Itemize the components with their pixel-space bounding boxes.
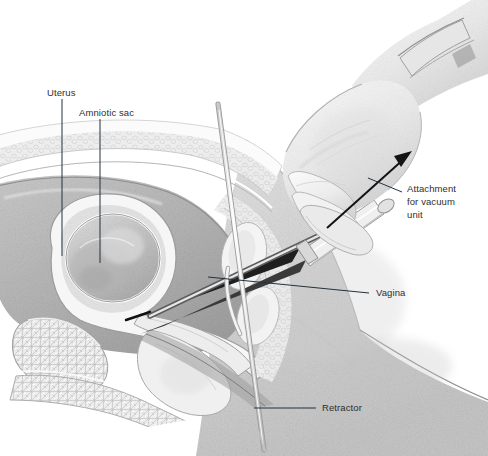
label-uterus: Uterus [47,86,76,99]
medical-illustration-figure: Uterus Amniotic sac Attachment for vacuu… [0,0,488,456]
anatomical-illustration-artwork [0,0,488,456]
label-vagina: Vagina [376,286,405,299]
label-amniotic-sac: Amniotic sac [79,106,134,119]
label-retractor: Retractor [322,401,362,414]
label-attachment-for-vacuum-unit: Attachment for vacuum unit [407,182,483,221]
amniotic-sac [66,214,160,302]
